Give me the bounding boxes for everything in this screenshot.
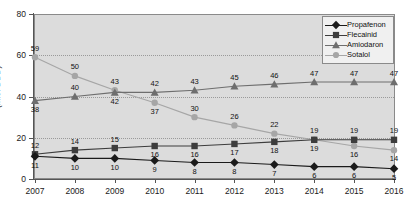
circle-marker-icon (325, 50, 347, 60)
y-tick (29, 55, 33, 56)
legend-label: Flecainid (347, 30, 377, 40)
x-tick-label: 2013 (265, 186, 284, 196)
data-point-label: 9 (153, 165, 157, 174)
data-point-label: 19 (310, 126, 318, 135)
data-point-label: 42 (150, 79, 158, 88)
gridline (35, 97, 394, 98)
data-point-label: 26 (230, 112, 238, 121)
data-point-label: 37 (150, 107, 158, 116)
y-axis-title: (Mio. DDD) (0, 66, 2, 109)
x-tick (155, 179, 156, 183)
gridline (35, 138, 394, 139)
data-point-label: 19 (390, 126, 398, 135)
data-point-label: 22 (270, 120, 278, 129)
y-tick (29, 97, 33, 98)
x-tick (35, 179, 36, 183)
data-point-label: 5 (392, 173, 396, 182)
data-point-label: 16 (350, 150, 358, 159)
data-point-label: 19 (310, 144, 318, 153)
y-tick-label: 80 (17, 9, 29, 19)
data-point-label: 47 (350, 69, 358, 78)
legend-item-sotalol: Sotalol (325, 50, 390, 60)
y-tick (29, 14, 33, 15)
data-point-label: 19 (350, 126, 358, 135)
data-point-label: 12 (31, 141, 39, 150)
data-point-label: 30 (190, 104, 198, 113)
chart-root: (Mio. DDD) 020406080 2007200820092010201… (0, 0, 413, 206)
x-tick (115, 179, 116, 183)
x-tick-label: 2009 (105, 186, 124, 196)
y-tick-label: 20 (17, 133, 29, 143)
data-point-label: 16 (190, 150, 198, 159)
data-point-label: 47 (390, 69, 398, 78)
x-tick-label: 2007 (26, 186, 45, 196)
x-tick (75, 179, 76, 183)
data-point-label: 14 (71, 137, 79, 146)
x-tick (195, 179, 196, 183)
data-point-label: 10 (111, 163, 119, 172)
x-tick (234, 179, 235, 183)
legend-label: Sotalol (347, 50, 370, 60)
x-tick-label: 2011 (185, 186, 203, 196)
data-point-label: 14 (390, 154, 398, 163)
y-tick (29, 179, 33, 180)
data-point-label: 59 (31, 44, 39, 53)
data-point-label: 7 (272, 169, 276, 178)
legend-label: Propafenon (347, 20, 386, 30)
x-tick (274, 179, 275, 183)
data-point-label: 11 (31, 161, 39, 170)
legend-label: Amiodaron (347, 40, 383, 50)
x-tick-label: 2014 (305, 186, 324, 196)
data-point-label: 42 (111, 97, 119, 106)
data-point-label: 46 (270, 71, 278, 80)
data-point-label: 38 (31, 105, 39, 114)
y-axis (33, 13, 34, 180)
x-tick-label: 2008 (65, 186, 84, 196)
data-point-label: 6 (312, 171, 316, 180)
data-point-label: 47 (310, 69, 318, 78)
x-tick-label: 2016 (385, 186, 404, 196)
data-point-label: 50 (71, 62, 79, 71)
data-point-label: 8 (232, 167, 236, 176)
x-tick-label: 2010 (145, 186, 164, 196)
data-point-label: 18 (270, 146, 278, 155)
data-point-label: 43 (111, 77, 119, 86)
data-point-label: 17 (230, 148, 238, 157)
data-point-label: 10 (71, 163, 79, 172)
data-point-label: 40 (71, 83, 79, 92)
x-tick-label: 2015 (345, 186, 364, 196)
y-tick-label: 0 (21, 174, 29, 184)
data-point-label: 43 (190, 77, 198, 86)
data-point-label: 8 (192, 167, 196, 176)
data-point-label: 15 (111, 135, 119, 144)
x-tick-label: 2012 (225, 186, 244, 196)
data-point-label: 45 (230, 73, 238, 82)
data-point-label: 16 (150, 150, 158, 159)
x-axis (33, 179, 396, 180)
legend: Propafenon Flecainid Amiodaron Sotalol (322, 16, 394, 64)
y-tick-label: 60 (17, 50, 29, 60)
y-tick (29, 138, 33, 139)
data-point-label: 6 (352, 171, 356, 180)
y-tick-label: 40 (17, 92, 29, 102)
